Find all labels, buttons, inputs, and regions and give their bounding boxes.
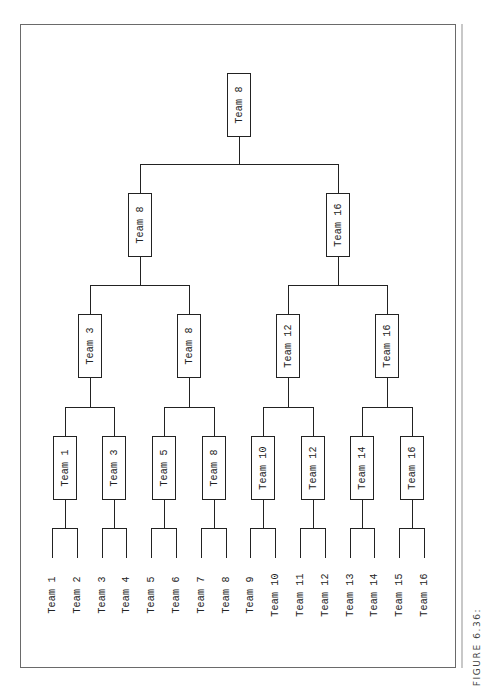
entrant-label: Team 11 xyxy=(293,570,307,620)
entrant-leg-line xyxy=(250,528,251,558)
advance-line xyxy=(263,500,264,528)
quarterfinal-winner-box: Team 8 xyxy=(177,314,201,378)
advance-line xyxy=(90,378,91,407)
entrant-name: Team 9 xyxy=(245,576,256,613)
advance-line xyxy=(140,257,141,285)
entrant-name: Team 11 xyxy=(295,573,306,616)
round1-winner-box-label: Team 8 xyxy=(209,449,220,486)
round1-winner-box: Team 16 xyxy=(400,436,424,500)
quarterfinal-winner-box-label: Team 12 xyxy=(283,324,294,367)
bracket-connector-line xyxy=(387,285,388,314)
advance-line xyxy=(338,257,339,285)
entrant-leg-line xyxy=(102,528,103,558)
round1-winner-box-label: Team 10 xyxy=(258,446,269,489)
entrant-leg-line xyxy=(325,528,326,558)
bracket-connector-line xyxy=(338,164,339,193)
pair-bracket-line xyxy=(263,407,314,408)
pair-bracket-line xyxy=(65,407,115,408)
pair-bracket-line xyxy=(151,528,177,529)
champion-box: Team 8 xyxy=(227,73,251,137)
entrant-label: Team 16 xyxy=(417,570,431,620)
advance-line xyxy=(362,500,363,528)
quarterfinal-winner-box-label: Team 3 xyxy=(85,327,96,364)
entrant-name: Team 3 xyxy=(97,576,108,613)
entrant-label: Team 14 xyxy=(367,570,381,620)
round1-winner-box: Team 1 xyxy=(53,436,77,500)
entrant-label: Team 2 xyxy=(70,570,84,620)
bracket-connector-line xyxy=(65,407,66,436)
entrant-name: Team 13 xyxy=(345,573,356,616)
entrant-label: Team 10 xyxy=(268,570,282,620)
bracket-connector-line xyxy=(90,285,91,314)
round1-winner-box: Team 3 xyxy=(102,436,126,500)
bracket-connector-line xyxy=(214,407,215,436)
bracket-connector-line xyxy=(263,407,264,436)
round1-winner-box: Team 5 xyxy=(152,436,176,500)
advance-line xyxy=(313,500,314,528)
entrant-label: Team 13 xyxy=(343,570,357,620)
advance-line xyxy=(239,137,240,164)
advance-line xyxy=(214,500,215,528)
entrant-leg-line xyxy=(300,528,301,558)
semifinal-winner-box: Team 16 xyxy=(326,193,350,257)
round1-winner-box: Team 12 xyxy=(301,436,325,500)
entrant-name: Team 8 xyxy=(221,576,232,613)
entrant-label: Team 3 xyxy=(95,570,109,620)
entrant-name: Team 1 xyxy=(47,576,58,613)
entrant-name: Team 6 xyxy=(171,576,182,613)
pair-bracket-line xyxy=(288,285,388,286)
entrant-leg-line xyxy=(151,528,152,558)
round1-winner-box: Team 8 xyxy=(202,436,226,500)
bracket-connector-line xyxy=(288,285,289,314)
quarterfinal-winner-box: Team 3 xyxy=(78,314,102,378)
entrant-label: Team 7 xyxy=(194,570,208,620)
pair-bracket-line xyxy=(300,528,326,529)
entrant-name: Team 10 xyxy=(270,573,281,616)
round1-winner-box-label: Team 14 xyxy=(357,446,368,489)
round1-winner-box: Team 14 xyxy=(350,436,374,500)
entrant-leg-line xyxy=(399,528,400,558)
entrant-name: Team 16 xyxy=(419,573,430,616)
pair-bracket-line xyxy=(164,407,215,408)
entrant-leg-line xyxy=(226,528,227,558)
final-bracket-line xyxy=(140,164,339,165)
quarterfinal-winner-box-label: Team 8 xyxy=(184,327,195,364)
entrant-label: Team 8 xyxy=(219,570,233,620)
entrant-leg-line xyxy=(77,528,78,558)
entrant-name: Team 7 xyxy=(196,576,207,613)
entrant-name: Team 5 xyxy=(146,576,157,613)
pair-bracket-line xyxy=(399,528,425,529)
quarterfinal-winner-box: Team 12 xyxy=(276,314,300,378)
entrant-name: Team 2 xyxy=(72,576,83,613)
round1-winner-box: Team 10 xyxy=(251,436,275,500)
figure-caption-text: FIGURE 6.36: xyxy=(472,608,482,686)
bracket-connector-line xyxy=(313,407,314,436)
entrant-label: Team 12 xyxy=(318,570,332,620)
pair-bracket-line xyxy=(90,285,190,286)
entrant-name: Team 4 xyxy=(121,576,132,613)
bracket-connector-line xyxy=(412,407,413,436)
entrant-label: Team 9 xyxy=(243,570,257,620)
round1-winner-box-label: Team 5 xyxy=(159,449,170,486)
advance-line xyxy=(288,378,289,407)
entrant-label: Team 4 xyxy=(119,570,133,620)
pair-bracket-line xyxy=(52,528,78,529)
pair-bracket-line xyxy=(350,528,375,529)
advance-line xyxy=(412,500,413,528)
pair-bracket-line xyxy=(201,528,227,529)
entrant-leg-line xyxy=(176,528,177,558)
pair-bracket-line xyxy=(250,528,276,529)
round1-winner-box-label: Team 12 xyxy=(308,446,319,489)
bracket-connector-line xyxy=(114,407,115,436)
entrant-label: Team 5 xyxy=(144,570,158,620)
entrant-leg-line xyxy=(126,528,127,558)
bracket-connector-line xyxy=(140,164,141,193)
round1-winner-box-label: Team 1 xyxy=(60,449,71,486)
entrant-leg-line xyxy=(424,528,425,558)
entrant-leg-line xyxy=(52,528,53,558)
advance-line xyxy=(164,500,165,528)
round1-winner-box-label: Team 3 xyxy=(109,449,120,486)
champion-box-label: Team 8 xyxy=(234,86,245,123)
entrant-name: Team 12 xyxy=(320,573,331,616)
semifinal-winner-box: Team 8 xyxy=(128,193,152,257)
